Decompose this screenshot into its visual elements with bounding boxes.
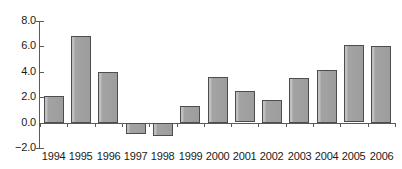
x-axis-tick-mark [40, 123, 41, 127]
x-axis-tick-label: 2002 [258, 150, 285, 162]
x-axis-tick-mark [122, 123, 123, 127]
x-axis-tick-label: 2001 [231, 150, 258, 162]
x-axis-tick-label: 1999 [177, 150, 204, 162]
bar [98, 72, 118, 123]
x-axis-tick-label: 2003 [286, 150, 313, 162]
x-axis-tick-label: 1995 [67, 150, 94, 162]
x-axis-tick-mark [67, 123, 68, 127]
bar [344, 45, 364, 122]
x-axis-tick-mark [286, 123, 287, 127]
y-axis-tick-label-text: 0.0 [2, 117, 36, 128]
bar [371, 46, 391, 123]
x-axis-tick-label: 1998 [149, 150, 176, 162]
bar [289, 78, 309, 123]
y-axis-tick-label-text: 4.0 [2, 66, 36, 77]
x-axis-tick-mark [395, 123, 396, 127]
y-axis-tick-label-text: 2.0 [2, 91, 36, 102]
y-axis-tick-label: 4.0 [0, 66, 36, 77]
x-axis-tick-mark [204, 123, 205, 127]
bar [153, 123, 173, 136]
x-axis-tick-label: 2005 [340, 150, 367, 162]
y-axis-line [39, 21, 40, 148]
y-axis-tick-label: 0.0 [0, 117, 36, 128]
x-axis-tick-label: 1996 [95, 150, 122, 162]
bar-chart: 8.06.04.02.00.0−2.0 19941995199619971998… [0, 0, 402, 169]
x-axis-tick-label: 2006 [368, 150, 395, 162]
y-axis-tick-mark [40, 148, 44, 149]
bar [317, 70, 337, 123]
bar [235, 91, 255, 122]
x-axis-tick-mark [313, 123, 314, 127]
x-axis-tick-label: 1994 [40, 150, 67, 162]
y-axis-tick-label: 6.0 [0, 40, 36, 51]
y-axis-tick-label: 2.0 [0, 91, 36, 102]
bar [71, 36, 91, 123]
x-axis-tick-mark [177, 123, 178, 127]
y-axis-tick-mark [40, 72, 44, 73]
x-axis-tick-mark [258, 123, 259, 127]
y-axis-tick-mark [40, 21, 44, 22]
x-axis-tick-mark [149, 123, 150, 127]
y-axis-tick-label: 8.0 [0, 15, 36, 26]
bar [126, 123, 146, 134]
bar [180, 106, 200, 123]
bar [208, 77, 228, 123]
y-axis-tick-mark [40, 46, 44, 47]
x-axis-tick-mark [368, 123, 369, 127]
y-axis-tick-label-text: −2.0 [2, 142, 36, 153]
bar [262, 100, 282, 123]
y-axis-tick-label-text: 6.0 [2, 40, 36, 51]
bar [44, 96, 64, 123]
x-axis-tick-mark [340, 123, 341, 127]
y-axis-tick-label-text: 8.0 [2, 15, 36, 26]
x-axis-tick-label: 2004 [313, 150, 340, 162]
x-axis-tick-label: 2000 [204, 150, 231, 162]
x-axis-tick-mark [95, 123, 96, 127]
x-axis-tick-label: 1997 [122, 150, 149, 162]
y-axis-tick-label: −2.0 [0, 142, 36, 153]
x-axis-tick-mark [231, 123, 232, 127]
